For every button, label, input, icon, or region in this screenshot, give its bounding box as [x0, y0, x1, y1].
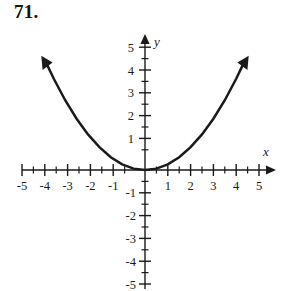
x-tick-label: 4 [233, 179, 240, 193]
x-tick-label: -2 [85, 179, 95, 193]
x-tick-labels-group: -5 -4 -3 -2 -1 1 2 3 4 5 [17, 179, 262, 193]
y-axis-label: y [152, 34, 160, 49]
y-tick-label: -5 [126, 278, 136, 291]
x-axis-label: x [262, 144, 269, 159]
x-tick-label: -3 [62, 179, 72, 193]
y-tick-label: 3 [128, 86, 134, 100]
y-tick-label: -2 [126, 209, 136, 223]
y-tick-label: 5 [128, 41, 134, 55]
y-tick-label: 4 [128, 64, 135, 78]
curve-right-arrow-icon [237, 56, 248, 70]
x-tick-label: 5 [256, 179, 262, 193]
x-tick-label: 2 [187, 179, 193, 193]
x-tick-label: -1 [108, 179, 118, 193]
axis-group [22, 34, 276, 289]
y-tick-label: -4 [126, 255, 137, 269]
x-tick-label: 3 [210, 179, 216, 193]
x-tick-label: 1 [165, 179, 171, 193]
y-tick-label: 2 [128, 109, 134, 123]
y-tick-label: -3 [126, 232, 136, 246]
x-tick-label: -4 [40, 179, 51, 193]
minor-ticks-group [33, 59, 247, 273]
x-axis-arrow-icon [266, 165, 276, 174]
y-tick-label: 1 [128, 132, 134, 146]
curve-left-arrow-icon [41, 56, 52, 70]
y-axis-arrow-icon [140, 34, 149, 44]
y-tick-label: -1 [126, 186, 136, 200]
figure-container: 71. [0, 0, 286, 291]
x-tick-label: -5 [17, 179, 27, 193]
major-ticks-group [22, 47, 259, 284]
cartesian-graph: -5 -4 -3 -2 -1 1 2 3 4 5 5 4 3 2 1 -1 -2… [0, 0, 286, 291]
